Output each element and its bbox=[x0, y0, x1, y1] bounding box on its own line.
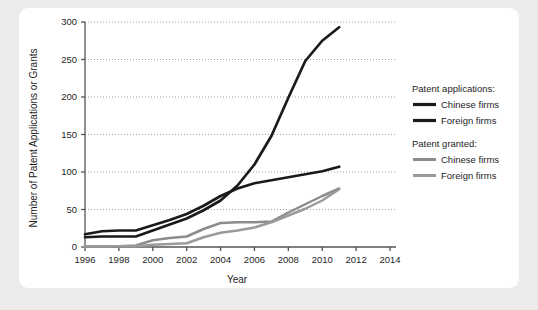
series-line-1 bbox=[85, 167, 339, 235]
x-tick-label-2010: 2010 bbox=[312, 254, 333, 265]
y-tick-label-300: 300 bbox=[61, 16, 77, 27]
y-tick-label-100: 100 bbox=[61, 166, 77, 177]
patent-line-chart: 050100150200250300 199619982000200220042… bbox=[0, 0, 538, 310]
legend-label-0-1: Foreign firms bbox=[441, 115, 497, 126]
legend-label-0-0: Chinese firms bbox=[441, 99, 499, 110]
legend-label-1-1: Foreign firms bbox=[441, 170, 497, 181]
x-tick-label-2008: 2008 bbox=[278, 254, 299, 265]
legend-heading-1: Patent granted: bbox=[412, 138, 477, 149]
x-tick-label-2014: 2014 bbox=[379, 254, 400, 265]
x-tick-label-2012: 2012 bbox=[346, 254, 367, 265]
y-tick-label-50: 50 bbox=[66, 204, 77, 215]
y-tick-label-0: 0 bbox=[72, 241, 77, 252]
x-tick-label-1998: 1998 bbox=[108, 254, 129, 265]
legend-label-1-0: Chinese firms bbox=[441, 154, 499, 165]
chart-legend: Patent applications:Chinese firmsForeign… bbox=[412, 83, 499, 181]
x-axis-title: Year bbox=[227, 274, 248, 285]
x-tick-label-2000: 2000 bbox=[142, 254, 163, 265]
data-series-group bbox=[85, 27, 339, 246]
chart-screenshot-root: 050100150200250300 199619982000200220042… bbox=[0, 0, 538, 310]
x-tick-label-2004: 2004 bbox=[210, 254, 231, 265]
y-axis: 050100150200250300 bbox=[61, 16, 85, 252]
x-tick-label-1996: 1996 bbox=[74, 254, 95, 265]
y-tick-label-200: 200 bbox=[61, 91, 77, 102]
legend-heading-0: Patent applications: bbox=[412, 83, 495, 94]
x-tick-label-2002: 2002 bbox=[176, 254, 197, 265]
x-tick-label-2006: 2006 bbox=[244, 254, 265, 265]
x-axis: 1996199820002002200420062008201020122014 bbox=[74, 247, 400, 265]
y-axis-title: Number of Patent Applications or Grants bbox=[28, 49, 39, 228]
y-tick-label-250: 250 bbox=[61, 54, 77, 65]
y-tick-label-150: 150 bbox=[61, 129, 77, 140]
